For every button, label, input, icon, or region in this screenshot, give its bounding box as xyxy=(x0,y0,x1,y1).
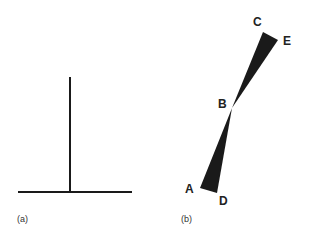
lower-wedge-bad xyxy=(200,108,232,193)
caption-a: (a) xyxy=(17,214,28,224)
diagram-canvas xyxy=(0,0,315,243)
point-label-d: D xyxy=(219,194,228,208)
caption-b: (b) xyxy=(181,214,192,224)
point-label-a: A xyxy=(185,182,194,196)
upper-wedge-bce xyxy=(232,32,278,108)
point-label-b: B xyxy=(218,97,227,111)
point-label-e: E xyxy=(283,34,291,48)
point-label-c: C xyxy=(253,15,262,29)
